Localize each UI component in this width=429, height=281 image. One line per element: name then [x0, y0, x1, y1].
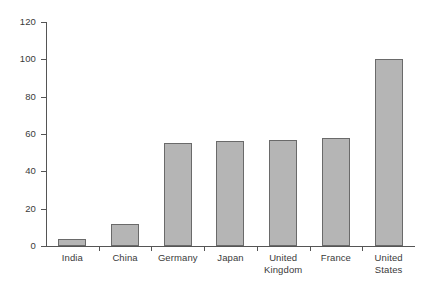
y-tick-label-100: 100 [0, 54, 36, 64]
y-tick-label-60: 60 [0, 129, 36, 139]
bar[interactable] [322, 138, 350, 246]
bar[interactable] [58, 239, 86, 246]
y-tick-label-0: 0 [0, 241, 36, 251]
x-tick-6 [362, 246, 363, 251]
y-tick-0 [41, 246, 46, 247]
y-tick-label-20: 20 [0, 204, 36, 214]
y-tick-label-120: 120 [0, 17, 36, 27]
category-label: Germany [151, 252, 204, 264]
bar-slot [362, 22, 415, 246]
bar[interactable] [164, 143, 192, 246]
plot-area [46, 22, 415, 246]
bar-slot [257, 22, 310, 246]
bar[interactable] [375, 59, 403, 246]
bar[interactable] [216, 141, 244, 246]
bar-slot [46, 22, 99, 246]
y-tick-label-40: 40 [0, 166, 36, 176]
category-label: China [99, 252, 152, 264]
bar-slot [204, 22, 257, 246]
bar-slot [310, 22, 363, 246]
x-tick-5 [310, 246, 311, 251]
x-tick-1 [99, 246, 100, 251]
bar[interactable] [269, 140, 297, 246]
category-label: India [46, 252, 99, 264]
bar[interactable] [111, 224, 139, 246]
bar-chart: 020406080100120 IndiaChinaGermanyJapanUn… [0, 0, 429, 281]
bar-slot [151, 22, 204, 246]
x-tick-3 [204, 246, 205, 251]
x-axis-line [46, 246, 415, 247]
bar-slot [99, 22, 152, 246]
category-label: Japan [204, 252, 257, 264]
category-label: France [310, 252, 363, 264]
x-tick-4 [257, 246, 258, 251]
category-label: United States [362, 252, 415, 275]
category-label: United Kingdom [257, 252, 310, 275]
x-tick-2 [151, 246, 152, 251]
y-tick-label-80: 80 [0, 92, 36, 102]
